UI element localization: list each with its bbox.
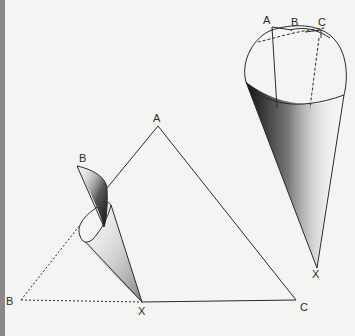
label-vertex-c-left: C bbox=[300, 302, 308, 313]
label-vertex-x-left: X bbox=[138, 306, 145, 317]
label-vertex-a-left: A bbox=[153, 113, 160, 124]
right-cone-figure bbox=[245, 26, 347, 268]
label-rim-c: C bbox=[318, 17, 326, 28]
label-rim-b: B bbox=[291, 17, 298, 28]
left-triangle-figure bbox=[21, 126, 296, 302]
label-vertex-b-original: B bbox=[6, 296, 13, 307]
label-rim-a: A bbox=[263, 15, 270, 26]
label-vertex-b-folded: B bbox=[79, 153, 86, 164]
cone-diagram bbox=[0, 0, 355, 336]
label-apex-x-right: X bbox=[312, 269, 319, 280]
